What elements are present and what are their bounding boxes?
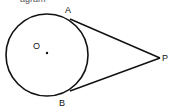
circle-o bbox=[6, 14, 88, 96]
label-o: O bbox=[33, 41, 40, 51]
center-point bbox=[46, 52, 48, 54]
geometry-diagram: agram O A B P bbox=[0, 0, 169, 106]
tangent-pa bbox=[70, 19, 160, 58]
cut-off-caption: agram bbox=[20, 0, 46, 4]
label-a: A bbox=[65, 5, 71, 15]
label-p: P bbox=[162, 53, 168, 63]
label-b: B bbox=[59, 98, 65, 106]
